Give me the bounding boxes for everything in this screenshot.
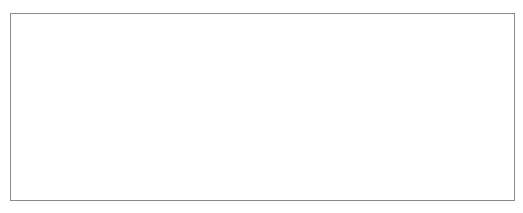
- geometric-figure: [0, 0, 523, 213]
